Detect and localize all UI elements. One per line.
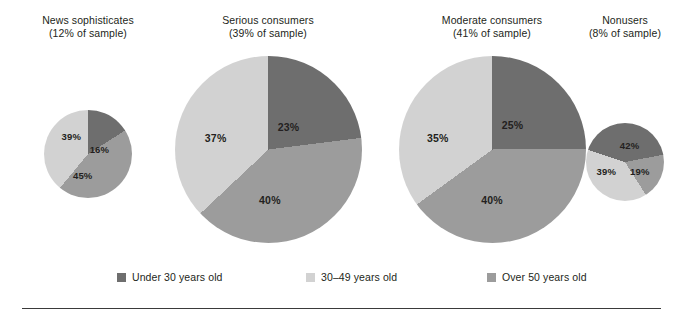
- legend-item-under-30: Under 30 years old: [117, 271, 223, 283]
- pie-slices: [44, 110, 132, 198]
- bottom-divider: [22, 308, 661, 309]
- pie-slice-label-over50: 45%: [73, 170, 93, 181]
- pie-slices: [586, 123, 664, 201]
- pie-slice-label-30to49: 39%: [596, 165, 616, 176]
- pie-chart-figure: News sophisticates (12% of sample) 16% 3…: [0, 0, 683, 318]
- legend-swatch-under-30-icon: [117, 273, 126, 282]
- pie-chart-nonusers: 42% 39% 19%: [586, 123, 664, 201]
- chart-legend: Under 30 years old 30–49 years old Over …: [0, 271, 683, 287]
- pie-title-moderate-consumers: Moderate consumers (41% of sample): [392, 14, 592, 39]
- pie-title-news-sophisticates: News sophisticates (12% of sample): [8, 14, 168, 39]
- legend-label-30-49: 30–49 years old: [321, 271, 397, 283]
- pie-chart-serious-consumers: 23% 37% 40%: [175, 56, 362, 243]
- pie-panel-news-sophisticates: News sophisticates (12% of sample) 16% 3…: [8, 14, 168, 198]
- pie-slice-label-30to49: 37%: [205, 132, 227, 144]
- legend-label-under-30: Under 30 years old: [132, 271, 223, 283]
- pie-panel-moderate-consumers: Moderate consumers (41% of sample) 25% 3…: [392, 14, 592, 243]
- pie-slice-label-over50: 40%: [481, 194, 503, 206]
- pie-title-line2: (39% of sample): [168, 27, 368, 40]
- pie-title-line1: Serious consumers: [168, 14, 368, 27]
- pie-slice-label-30to49: 35%: [427, 132, 449, 144]
- pie-slice-label-over50: 40%: [259, 194, 281, 206]
- pie-title-line2: (41% of sample): [392, 27, 592, 40]
- pie-title-line1: Nonusers: [570, 14, 680, 27]
- pie-slices: [399, 56, 586, 243]
- pie-title-serious-consumers: Serious consumers (39% of sample): [168, 14, 368, 39]
- pie-title-line2: (8% of sample): [570, 27, 680, 40]
- pie-slice-label-30to49: 39%: [61, 131, 81, 142]
- pie-title-line1: News sophisticates: [8, 14, 168, 27]
- pie-slice-label-under30: 42%: [620, 139, 640, 150]
- legend-swatch-over-50-icon: [487, 273, 496, 282]
- pie-chart-news-sophisticates: 16% 39% 45%: [44, 110, 132, 198]
- legend-item-30-49: 30–49 years old: [306, 271, 397, 283]
- pie-slice-label-over50: 19%: [630, 165, 650, 176]
- pie-slice-label-under30: 23%: [278, 121, 300, 133]
- pie-slice-label-under30: 25%: [502, 119, 524, 131]
- pie-panel-serious-consumers: Serious consumers (39% of sample) 23% 37…: [168, 14, 368, 243]
- pie-slices: [175, 56, 362, 243]
- pie-title-nonusers: Nonusers (8% of sample): [570, 14, 680, 39]
- pie-panel-nonusers: Nonusers (8% of sample) 42% 39% 19%: [570, 14, 680, 201]
- pie-title-line2: (12% of sample): [8, 27, 168, 40]
- pie-title-line1: Moderate consumers: [392, 14, 592, 27]
- legend-swatch-30-49-icon: [306, 273, 315, 282]
- pie-slice-label-under30: 16%: [90, 143, 110, 154]
- legend-item-over-50: Over 50 years old: [487, 271, 587, 283]
- pie-chart-moderate-consumers: 25% 35% 40%: [399, 56, 586, 243]
- legend-label-over-50: Over 50 years old: [502, 271, 587, 283]
